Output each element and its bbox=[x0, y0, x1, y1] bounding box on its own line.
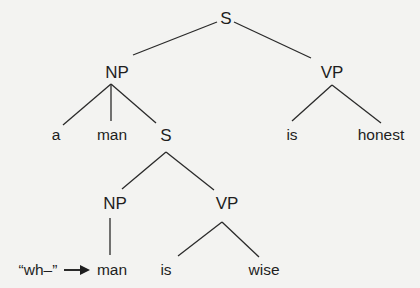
leaf-is-embedded: is bbox=[160, 262, 171, 278]
edge-np-a bbox=[63, 84, 111, 125]
edge-np-s bbox=[111, 84, 156, 123]
leaf-honest: honest bbox=[358, 127, 405, 143]
edge-vp2-wise bbox=[222, 222, 259, 257]
leaf-a: a bbox=[52, 127, 61, 143]
leaf-is: is bbox=[286, 127, 297, 143]
node-np-embedded: NP bbox=[103, 195, 127, 212]
node-np: NP bbox=[105, 64, 129, 81]
edge-vp-honest bbox=[332, 85, 381, 123]
wh-annotation: “wh–” bbox=[19, 262, 58, 278]
edge-s-vp bbox=[234, 22, 311, 58]
node-vp: VP bbox=[321, 64, 344, 81]
leaf-man: man bbox=[97, 127, 127, 143]
edge-s2-vp bbox=[166, 152, 214, 190]
edge-vp-is bbox=[292, 85, 332, 121]
tree-edges bbox=[0, 0, 420, 288]
edge-vp2-is bbox=[178, 222, 222, 256]
edge-s-np bbox=[133, 22, 217, 55]
node-s-embedded: S bbox=[160, 127, 171, 144]
leaf-man-embedded: man bbox=[97, 262, 127, 278]
edge-s2-np bbox=[122, 152, 166, 189]
node-s-root: S bbox=[220, 10, 231, 27]
right-arrow-icon bbox=[64, 265, 90, 275]
node-vp-embedded: VP bbox=[216, 195, 239, 212]
leaf-wise: wise bbox=[248, 262, 279, 278]
